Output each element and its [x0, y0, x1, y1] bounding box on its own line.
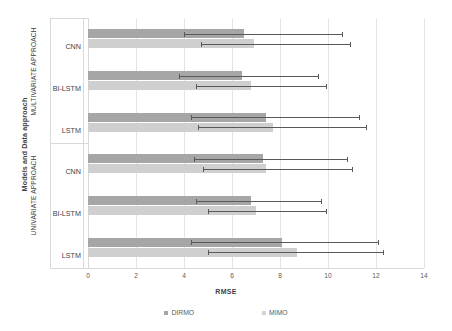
x-tick-label-2: 2	[126, 272, 146, 279]
category-label-univariate-cnn: CNN	[52, 167, 81, 176]
error-cap-dirmo-4-high	[321, 199, 322, 204]
gridline-2	[136, 18, 137, 268]
error-cap-dirmo-0-high	[342, 32, 343, 37]
y-axis-line	[88, 18, 89, 268]
error-cap-dirmo-3-low	[194, 157, 195, 162]
x-axis-line	[88, 268, 424, 269]
legend-entry-dirmo[interactable]: DIRMO	[164, 309, 194, 316]
error-cap-mimo-0-high	[350, 42, 351, 47]
x-tick-label-10: 10	[318, 272, 338, 279]
legend-swatch-dirmo-icon	[164, 311, 168, 315]
error-cap-mimo-1-low	[196, 84, 197, 89]
x-tick-label-4: 4	[174, 272, 194, 279]
error-bar-mimo-4	[208, 211, 326, 212]
x-axis-title: RMSE	[0, 288, 452, 295]
error-cap-dirmo-2-low	[191, 115, 192, 120]
error-cap-mimo-0-low	[201, 42, 202, 47]
legend-label-mimo: MIMO	[269, 309, 288, 316]
gridline-14	[424, 18, 425, 268]
error-bar-mimo-1	[196, 86, 326, 87]
error-cap-mimo-4-low	[208, 209, 209, 214]
category-label-multivariate-bi-lstm: BI-LSTM	[52, 84, 81, 93]
category-axis-bottom-line	[50, 268, 88, 269]
category-label-univariate-bi-lstm: BI-LSTM	[52, 209, 81, 218]
gridline-12	[376, 18, 377, 268]
error-cap-dirmo-5-high	[378, 240, 379, 245]
x-tick-label-0: 0	[78, 272, 98, 279]
gridline-6	[232, 18, 233, 268]
x-tick-label-12: 12	[366, 272, 386, 279]
error-bar-dirmo-0	[184, 34, 342, 35]
error-cap-dirmo-1-low	[179, 74, 180, 79]
x-tick-label-14: 14	[414, 272, 434, 279]
error-bar-dirmo-5	[191, 242, 378, 243]
error-bar-dirmo-1	[179, 76, 318, 77]
y-axis-title: Models and Data approach	[20, 90, 29, 200]
rmse-bar-chart: Models and Data approach MULTIVARIATE AP…	[0, 0, 452, 331]
error-cap-mimo-3-high	[352, 167, 353, 172]
error-cap-mimo-5-low	[208, 250, 209, 255]
error-bar-mimo-3	[203, 169, 352, 170]
error-bar-dirmo-3	[194, 159, 348, 160]
error-bar-dirmo-4	[196, 201, 321, 202]
plot-area	[88, 18, 424, 268]
gridline-8	[280, 18, 281, 268]
error-cap-mimo-2-high	[366, 125, 367, 130]
error-bar-mimo-5	[208, 252, 383, 253]
group-label-multivariate: MULTIVARIATE APPROACH	[30, 8, 37, 136]
error-bar-dirmo-2	[191, 117, 359, 118]
gridline-10	[328, 18, 329, 268]
error-bar-mimo-2	[198, 127, 366, 128]
error-cap-dirmo-5-low	[191, 240, 192, 245]
legend-swatch-mimo-icon	[262, 311, 266, 315]
error-cap-mimo-4-high	[326, 209, 327, 214]
x-tick-label-8: 8	[270, 272, 290, 279]
group-label-univariate: UNIVARIATE APPROACH	[30, 132, 37, 260]
error-cap-dirmo-4-low	[196, 199, 197, 204]
category-label-multivariate-cnn: CNN	[52, 42, 81, 51]
chart-legend: DIRMO MIMO	[0, 309, 452, 316]
category-axis-mid-line	[50, 143, 88, 144]
category-label-multivariate-lstm: LSTM	[52, 126, 81, 135]
error-cap-dirmo-2-high	[359, 115, 360, 120]
category-axis-top-line	[50, 18, 88, 19]
legend-label-dirmo: DIRMO	[171, 309, 194, 316]
error-cap-mimo-1-high	[326, 84, 327, 89]
error-cap-mimo-2-low	[198, 125, 199, 130]
error-cap-mimo-3-low	[203, 167, 204, 172]
legend-entry-mimo[interactable]: MIMO	[262, 309, 288, 316]
gridline-4	[184, 18, 185, 268]
x-tick-label-6: 6	[222, 272, 242, 279]
error-bar-mimo-0	[201, 44, 350, 45]
category-label-univariate-lstm: LSTM	[52, 251, 81, 260]
error-cap-dirmo-1-high	[318, 74, 319, 79]
error-cap-dirmo-0-low	[184, 32, 185, 37]
error-cap-mimo-5-high	[383, 250, 384, 255]
error-cap-dirmo-3-high	[347, 157, 348, 162]
